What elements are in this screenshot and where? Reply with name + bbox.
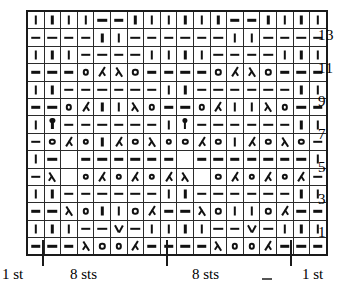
chart-row bbox=[27, 64, 327, 81]
chart-cell-purl bbox=[110, 29, 127, 46]
purl-icon bbox=[227, 99, 243, 115]
knit-icon bbox=[177, 29, 193, 45]
knit-icon bbox=[128, 82, 144, 98]
chart-cell-dec-left bbox=[44, 168, 61, 185]
purl-icon bbox=[45, 221, 61, 237]
purl-icon bbox=[294, 186, 310, 202]
purl-icon bbox=[61, 12, 77, 28]
chart-cell-knit bbox=[94, 46, 111, 63]
chart-cell-knit bbox=[193, 116, 210, 133]
knit-icon bbox=[294, 99, 310, 115]
knit-icon bbox=[28, 169, 44, 185]
chart-cell-knit bbox=[260, 220, 277, 237]
dec-left-icon bbox=[277, 134, 293, 150]
chart-cell-knit bbox=[44, 98, 61, 115]
dec-right-icon bbox=[111, 134, 127, 150]
dec-right-icon bbox=[227, 64, 243, 80]
chart-row bbox=[27, 98, 327, 115]
chart-cell-blank bbox=[193, 168, 210, 185]
chart-cell-purl bbox=[110, 203, 127, 220]
chart-cell-dec-right bbox=[193, 133, 210, 150]
chart-cell-purl bbox=[27, 151, 44, 168]
chart-cell-knit bbox=[193, 185, 210, 202]
knit-icon bbox=[277, 82, 293, 98]
chart-cell-dec-right bbox=[94, 168, 111, 185]
chart-cell-knit bbox=[193, 29, 210, 46]
knit-icon bbox=[78, 29, 94, 45]
knit-icon bbox=[94, 12, 110, 28]
chart-cell-yo bbox=[144, 168, 161, 185]
knit-icon bbox=[45, 29, 61, 45]
legend-tick-3 bbox=[290, 240, 292, 266]
chart-cell-knit bbox=[94, 11, 111, 29]
knit-icon bbox=[194, 29, 210, 45]
chart-cell-yo bbox=[210, 64, 227, 81]
purl-icon bbox=[61, 47, 77, 63]
yo-icon bbox=[78, 169, 94, 185]
chart-cell-dec-right bbox=[94, 64, 111, 81]
chart-cell-yo bbox=[127, 203, 144, 220]
knit-icon bbox=[144, 186, 160, 202]
purl-icon bbox=[177, 47, 193, 63]
chart-cell-knit bbox=[260, 185, 277, 202]
chart-cell-knit bbox=[127, 29, 144, 46]
chart-cell-knit bbox=[243, 46, 260, 63]
chart-cell-dec-right bbox=[227, 64, 244, 81]
chart-cell-purl bbox=[160, 116, 177, 133]
knit-icon bbox=[28, 203, 44, 219]
knit-icon bbox=[211, 47, 227, 63]
stitch-chart-grid bbox=[26, 10, 328, 256]
chart-row bbox=[27, 220, 327, 237]
dec-right-icon bbox=[194, 134, 210, 150]
yo-icon bbox=[260, 203, 276, 219]
chart-cell-purl bbox=[227, 29, 244, 46]
chart-cell-dec-left bbox=[177, 168, 194, 185]
chart-cell-knit bbox=[177, 29, 194, 46]
knit-icon bbox=[277, 29, 293, 45]
purl-icon bbox=[244, 29, 260, 45]
chart-cell-purl bbox=[110, 98, 127, 115]
knit-icon bbox=[294, 64, 310, 80]
purl-icon bbox=[61, 221, 77, 237]
chart-cell-knit bbox=[94, 81, 111, 98]
yo-icon bbox=[45, 134, 61, 150]
chart-cell-yo bbox=[210, 203, 227, 220]
knit-icon bbox=[161, 29, 177, 45]
chart-cell-yo bbox=[127, 133, 144, 150]
chart-cell-purl bbox=[276, 11, 293, 29]
knit-icon bbox=[94, 221, 110, 237]
knit-icon bbox=[294, 203, 310, 219]
yo-icon bbox=[211, 64, 227, 80]
chart-cell-blank bbox=[61, 151, 78, 168]
dec-left-icon bbox=[128, 99, 144, 115]
knit-icon bbox=[244, 151, 260, 167]
knit-icon bbox=[277, 116, 293, 132]
knit-icon bbox=[111, 151, 127, 167]
chart-cell-purl bbox=[193, 46, 210, 63]
chart-row bbox=[27, 168, 327, 185]
dec-left-icon bbox=[144, 134, 160, 150]
chart-cell-knit bbox=[160, 151, 177, 168]
yo-icon bbox=[78, 134, 94, 150]
knit-icon bbox=[211, 116, 227, 132]
chart-cell-yo bbox=[77, 203, 94, 220]
knit-icon bbox=[45, 64, 61, 80]
chart-cell-knit bbox=[127, 81, 144, 98]
chart-cell-purl bbox=[27, 11, 44, 29]
chart-cell-purl bbox=[94, 98, 111, 115]
legend-tick-2 bbox=[166, 240, 168, 266]
chart-cell-yo bbox=[193, 98, 210, 115]
knit-icon bbox=[28, 99, 44, 115]
chart-cell-purl bbox=[27, 116, 44, 133]
purl-icon bbox=[161, 47, 177, 63]
purl-icon bbox=[45, 47, 61, 63]
chart-cell-purl bbox=[293, 185, 310, 202]
chart-cell-knit bbox=[110, 151, 127, 168]
chart-cell-yo bbox=[210, 168, 227, 185]
knit-icon bbox=[260, 151, 276, 167]
knit-icon bbox=[111, 116, 127, 132]
chart-cell-purl bbox=[293, 220, 310, 237]
knit-icon bbox=[128, 186, 144, 202]
chart-cell-purl bbox=[160, 11, 177, 29]
chart-cell-purl bbox=[243, 98, 260, 115]
